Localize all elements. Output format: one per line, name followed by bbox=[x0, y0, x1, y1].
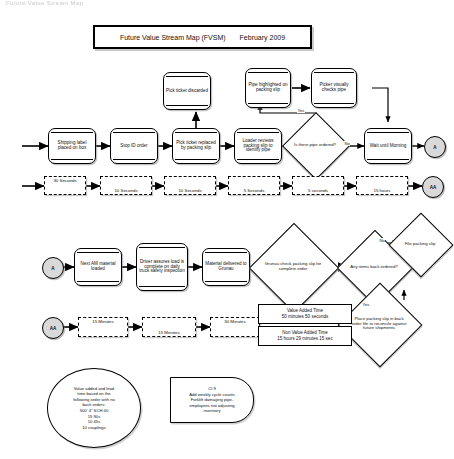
continuous-improvement-note-text: CI 9 Add weekly cycle counts Forklift da… bbox=[189, 386, 235, 413]
decision-place-packing-slip-backorder[interactable]: Place packing slip in back order file to… bbox=[350, 295, 408, 353]
note-line-1: Add weekly cycle counts bbox=[189, 392, 235, 397]
info-line-3: back orders: bbox=[82, 402, 105, 407]
note-line-4: inventory bbox=[204, 408, 221, 413]
info-line-0: Value added and lead bbox=[74, 386, 114, 391]
decision-any-items-back-ordered-label: Any items back ordered? bbox=[350, 265, 398, 270]
edge-label-yes-row1: Yes bbox=[297, 108, 305, 113]
lead-time-assumption-text: Value added and lead time based on the f… bbox=[73, 386, 115, 430]
time-box-1-4-label: 5 Seconds bbox=[244, 188, 265, 193]
decision-file-packing-slip[interactable]: File packing slip bbox=[398, 222, 442, 266]
time-box-1-4: 5 Seconds bbox=[228, 176, 280, 195]
time-box-1-3: 10 Seconds bbox=[164, 176, 216, 195]
node-material-delivered-label: Material delivered to Grunau bbox=[203, 262, 249, 272]
edge-label-yes-row2-text: Yes bbox=[363, 302, 370, 307]
node-picker-visually-checks[interactable]: Picker visually checks pipe bbox=[311, 68, 357, 108]
continuous-improvement-note: CI 9 Add weekly cycle counts Forklift da… bbox=[170, 377, 254, 423]
node-driver-assures-load[interactable]: Driver assures load is complete on daily… bbox=[136, 243, 188, 291]
info-line-7: 10 couplings bbox=[82, 425, 106, 430]
node-loader-reviews-label: Loader reviews packing slip to identify … bbox=[235, 139, 281, 154]
edge-label-no-row1: No bbox=[344, 141, 350, 146]
time-box-1-2-label: 10 Seconds bbox=[114, 188, 137, 193]
non-value-added-time-box: Non Value Added Time 15 hours 29 minutes… bbox=[258, 326, 352, 346]
value-added-time-value: 50 minutes 50 seconds bbox=[282, 314, 328, 320]
decision-place-packing-slip-label: Place packing slip in back order file to… bbox=[350, 317, 408, 331]
connector-aa-in[interactable]: AA bbox=[42, 317, 64, 339]
decision-is-there-pipe-ordered-label: Is there pipe ordered? bbox=[294, 143, 336, 148]
note-line-3: employees not adjusting bbox=[189, 403, 234, 408]
info-line-2: following order with no bbox=[73, 397, 115, 402]
time-box-1-5: 5 seconds bbox=[292, 176, 344, 195]
node-material-delivered[interactable]: Material delivered to Grunau bbox=[202, 248, 250, 286]
node-shipping-label-placed-label: Shipping label placed on box bbox=[49, 141, 95, 151]
decision-grunau-check-packing-slip[interactable]: Grunau check packing slip for complete o… bbox=[262, 236, 324, 298]
edge-label-yes-row1-text: Yes bbox=[298, 108, 305, 113]
node-pick-ticket-replaced[interactable]: Pick ticket replaced by packing slip bbox=[172, 128, 220, 164]
connector-a-out[interactable]: A bbox=[424, 136, 446, 158]
time-box-1-2: 10 Seconds bbox=[100, 176, 152, 195]
connector-aa-in-label: AA bbox=[50, 326, 57, 331]
page-faint-header: Future Value Stream Map bbox=[6, 0, 83, 6]
node-stop-id-order[interactable]: Stop ID order bbox=[110, 128, 158, 164]
time-box-2-2: 15 Minutes bbox=[142, 317, 196, 337]
diagram-title-box: Future Value Stream Map (FVSM) February … bbox=[93, 25, 312, 49]
lead-time-assumption-circle: Value added and lead time based on the f… bbox=[47, 368, 141, 448]
node-pipe-highlighted-label: Pipe highlighted on packing slip bbox=[246, 83, 290, 93]
time-box-2-1-label: 15 Minutes bbox=[92, 319, 113, 324]
node-pick-ticket-discarded[interactable]: Pick ticket discarded bbox=[163, 72, 211, 110]
node-driver-assures-load-label: Driver assures load is complete on daily… bbox=[137, 260, 187, 275]
connector-a-out-label: A bbox=[433, 145, 436, 150]
time-box-2-2-label: 15 Minutes bbox=[158, 330, 179, 335]
time-box-2-3: 30 Minutes bbox=[210, 317, 260, 337]
node-wait-until-morning[interactable]: Wait until Morning bbox=[364, 128, 412, 164]
decision-file-packing-slip-label: File packing slip bbox=[405, 242, 436, 247]
node-wait-until-morning-label: Wait until Morning bbox=[368, 144, 409, 149]
node-stop-id-order-label: Stop ID order bbox=[118, 144, 149, 149]
value-added-time-box: Value Added Time 50 minutes 50 seconds bbox=[258, 304, 352, 324]
connector-a-in[interactable]: A bbox=[42, 257, 64, 279]
title-label: Future Value Stream Map (FVSM) bbox=[120, 34, 226, 41]
connector-aa-out-label: AA bbox=[430, 185, 437, 190]
node-pick-ticket-discarded-label: Pick ticket discarded bbox=[164, 89, 210, 94]
time-box-1-1: 30 Seconds bbox=[44, 176, 86, 195]
node-pipe-highlighted[interactable]: Pipe highlighted on packing slip bbox=[245, 68, 291, 108]
edge-label-yes-row2: Yes bbox=[362, 302, 370, 307]
node-shipping-label-placed[interactable]: Shipping label placed on box bbox=[48, 128, 96, 164]
non-value-added-time-value: 15 hours 29 minutes 15 sec bbox=[277, 336, 332, 342]
node-next-am-material-loaded-label: Next AM material loaded bbox=[75, 262, 121, 272]
time-box-2-3-label: 30 Minutes bbox=[224, 319, 245, 324]
decision-is-there-pipe-ordered[interactable]: Is there pipe ordered? bbox=[292, 122, 338, 168]
time-box-1-6-label: 15 hours bbox=[373, 188, 390, 193]
note-line-2: Forklift damaging pipe- bbox=[191, 397, 234, 402]
time-box-1-1-label: 30 Seconds bbox=[53, 178, 76, 183]
info-line-6: 10 45s bbox=[88, 419, 101, 424]
node-loader-reviews[interactable]: Loader reviews packing slip to identify … bbox=[234, 128, 282, 164]
info-line-4: 500' 4" SCH 40 bbox=[80, 408, 109, 413]
info-line-1: time based on the bbox=[77, 391, 110, 396]
connector-a-in-label: A bbox=[51, 266, 54, 271]
connector-aa-out[interactable]: AA bbox=[422, 176, 444, 198]
note-line-0: CI 9 bbox=[208, 386, 216, 391]
edge-label-no-row1-text: No bbox=[345, 141, 350, 146]
time-box-1-5-label: 5 seconds bbox=[308, 188, 328, 193]
node-picker-visually-checks-label: Picker visually checks pipe bbox=[312, 83, 356, 93]
time-box-2-1: 15 Minutes bbox=[78, 317, 128, 337]
time-box-1-3-label: 10 Seconds bbox=[178, 188, 201, 193]
decision-grunau-check-label: Grunau check packing slip for complete o… bbox=[262, 262, 324, 271]
edge-label-no-row2-text: No bbox=[380, 238, 385, 243]
node-next-am-material-loaded[interactable]: Next AM material loaded bbox=[74, 248, 122, 286]
node-pick-ticket-replaced-label: Pick ticket replaced by packing slip bbox=[173, 141, 219, 151]
info-line-5: 15 90s bbox=[88, 414, 101, 419]
time-box-1-6: 15 hours bbox=[356, 176, 408, 195]
edge-label-no-row2: No bbox=[379, 238, 385, 243]
title-date: February 2009 bbox=[240, 34, 286, 41]
